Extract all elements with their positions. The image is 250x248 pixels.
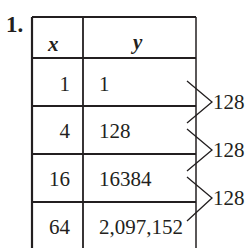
cell-y-1: 1 [99,74,110,95]
difference-bracket-1 [187,81,212,123]
cell-x-3: 16 [34,169,70,190]
difference-bracket-2 [187,129,212,171]
header-x: x [48,34,59,55]
cell-y-3: 16384 [99,169,152,190]
difference-label-1: 128 [213,92,245,113]
difference-label-2: 128 [213,140,245,161]
difference-label-3: 128 [213,188,245,209]
cell-y-2: 128 [99,121,131,142]
cell-x-4: 64 [34,217,70,238]
cell-x-1: 1 [34,74,70,95]
cell-x-2: 4 [34,121,70,142]
difference-bracket-3 [187,177,212,221]
cell-y-4: 2,097,152 [99,217,183,238]
header-y: y [133,32,142,53]
